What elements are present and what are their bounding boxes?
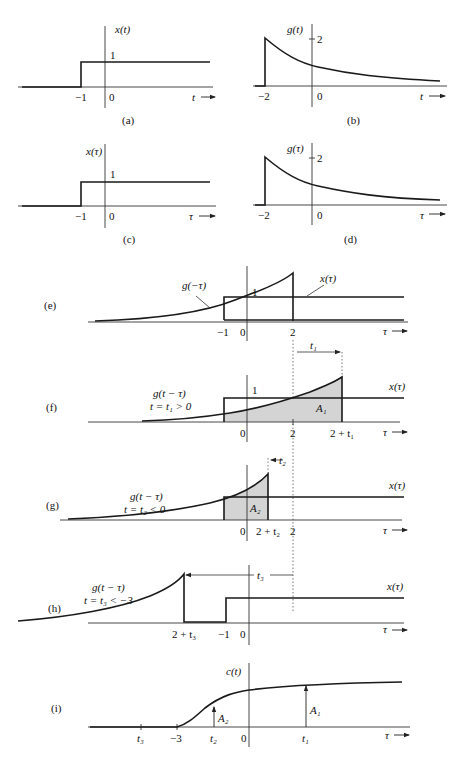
tick-label: 0	[241, 732, 247, 744]
area-label: A₂	[249, 502, 261, 514]
tick-label: 2	[290, 326, 296, 338]
pointer-line	[307, 285, 324, 296]
unit-step-signal	[22, 182, 210, 206]
curve-label: g(−τ)	[182, 279, 207, 292]
panel-g: t₂ g(t − τ) t = t₂ < 0 x(τ) A₂ 0 2 + t₂ …	[46, 454, 407, 541]
tick-label: 0	[240, 427, 246, 439]
signal-label: x(τ)	[319, 272, 336, 285]
shift-label: t₃	[257, 569, 264, 581]
caption: (i)	[51, 702, 62, 715]
tick-label: −2	[258, 209, 270, 221]
curve-label-2: t = t₃ < −3	[84, 594, 133, 606]
pointer-line	[196, 296, 210, 308]
tick-label: 2 + t₃	[172, 628, 196, 640]
tick-label: 0	[240, 628, 246, 640]
tick-label: 2 + t₁	[330, 427, 354, 439]
xlabel: τ	[420, 209, 425, 221]
tick-label: 0	[109, 210, 115, 222]
caption: (f)	[46, 401, 57, 414]
caption: (h)	[48, 602, 61, 615]
xlabel: τ	[189, 210, 194, 222]
curve-label-2: t = t₁ > 0	[150, 400, 192, 412]
caption: (g)	[46, 499, 59, 512]
tick-label: t₁	[302, 732, 309, 744]
ylabel: x(τ)	[85, 145, 102, 158]
panel-a: x(t) 1 −1 0 t (a)	[18, 23, 215, 127]
ylabel: c(t)	[226, 665, 242, 678]
g-and-x-signal	[18, 574, 404, 622]
xlabel: τ	[385, 729, 390, 741]
signal-label: x(τ)	[388, 479, 405, 492]
panel-d: g(τ) 2 −2 0 τ (d)	[253, 142, 447, 246]
curve-label-2: t = t₂ < 0	[124, 503, 166, 515]
area-label: A₁	[315, 402, 327, 414]
panel-i: c(t) A₂ A₁ t₃ −3 t₂ 0 t₁ τ (i)	[51, 663, 410, 747]
unit-step-signal	[22, 62, 210, 87]
panel-e: g(−τ) x(τ) 1 −1 0 2 τ (e)	[44, 266, 408, 341]
tick-label: 2	[290, 525, 296, 537]
x-tau-signal	[224, 297, 404, 320]
shaded-area-a1	[224, 377, 342, 422]
shift-label: t₂	[279, 454, 286, 466]
signal-label: x(τ)	[386, 580, 403, 593]
tick-label: −1	[218, 628, 230, 640]
arrow-label: A₁	[309, 704, 321, 716]
decaying-exponential-signal	[255, 157, 440, 205]
curve-label-1: g(t − τ)	[92, 581, 125, 594]
tick-label: −1	[75, 91, 87, 103]
curve-label-1: g(t − τ)	[153, 387, 186, 400]
panel-c: x(τ) 1 −1 0 τ (c)	[18, 144, 216, 246]
caption: (a)	[122, 114, 135, 127]
caption: (c)	[123, 233, 136, 246]
convolution-output-curve	[90, 682, 402, 727]
xlabel: τ	[383, 426, 388, 438]
tick-label: 0	[240, 326, 246, 338]
level-label: 2	[317, 33, 323, 45]
level-label: 1	[252, 384, 258, 396]
arrow-label: A₂	[217, 712, 229, 724]
signal-label: x(τ)	[388, 380, 405, 393]
xlabel: t	[420, 90, 424, 102]
curve-label-1: g(t − τ)	[130, 490, 163, 503]
tick-label: −1	[75, 210, 87, 222]
tick-label: 0	[317, 90, 323, 102]
ylabel: x(t)	[114, 23, 131, 36]
panel-h: t₃ g(t − τ) t = t₃ < −3 x(τ) 2 + t₃ −1 0…	[18, 565, 407, 645]
tick-label: t₃	[137, 732, 144, 744]
ylabel: g(τ)	[287, 142, 304, 155]
caption: (e)	[44, 299, 57, 312]
convolution-figure: x(t) 1 −1 0 t (a) g(t) 2 −2 0 t (b) x(τ)…	[0, 0, 458, 757]
panel-b: g(t) 2 −2 0 t (b)	[253, 23, 447, 127]
xlabel: τ	[383, 623, 388, 635]
xlabel: τ	[383, 524, 388, 536]
decaying-exponential-signal	[255, 38, 440, 86]
shift-label: t₁	[310, 339, 317, 351]
tick-label: 2 + t₂	[256, 525, 280, 537]
level-label: 1	[252, 286, 258, 298]
level-label: 1	[110, 49, 116, 61]
ylabel: g(t)	[287, 23, 303, 36]
caption: (d)	[344, 233, 357, 246]
level-label: 1	[110, 168, 116, 180]
tick-label: −2	[258, 90, 270, 102]
tick-label: t₂	[210, 732, 217, 744]
tick-label: 0	[317, 209, 323, 221]
tick-label: 2	[290, 427, 296, 439]
tick-label: −3	[170, 732, 182, 744]
xlabel: t	[192, 91, 196, 103]
tick-label: 0	[240, 525, 246, 537]
level-label: 2	[317, 152, 323, 164]
panel-f: t₁ g(t − τ) t = t₁ > 0 x(τ) 1 A₁ 0 2 2 +…	[46, 339, 407, 442]
tick-label: 0	[109, 91, 115, 103]
tick-label: −1	[217, 326, 229, 338]
xlabel: τ	[383, 325, 388, 337]
caption: (b)	[347, 114, 360, 127]
